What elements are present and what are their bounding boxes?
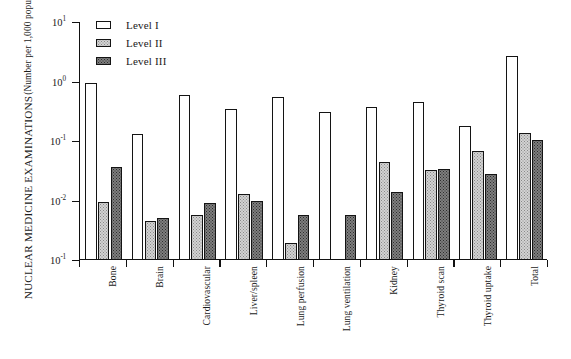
legend-swatch-level-2 [96,39,111,47]
bar-cardiovascular-level-1 [179,95,191,260]
bar-thyroid-scan-level-2 [425,170,437,260]
x-axis-label-kidney: Kidney [387,266,400,359]
x-axis-label-bone: Bone [106,266,119,359]
bar-thyroid-uptake-level-3 [485,174,497,260]
bar-kidney-level-1 [366,107,378,260]
x-tick-mark [219,260,220,267]
bar-kidney-level-3 [391,192,403,260]
bar-thyroid-uptake-level-1 [459,126,471,260]
bar-liver-spleen-level-1 [225,109,237,260]
x-axis-label-lung-ventilation: Lung ventilation [340,266,353,359]
x-tick-mark [79,260,80,267]
bar-bone-level-2 [98,202,110,260]
x-tick-mark [173,260,174,267]
legend-item-level-3: Level III [96,53,167,68]
x-axis-label-total: Total [528,266,541,359]
legend-item-level-2: Level II [96,35,167,50]
legend-label-level-3: Level III [126,55,167,67]
x-axis-label-lung-perfusion: Lung perfusion [294,266,307,359]
x-tick-mark [126,260,127,267]
x-axis-label-cardiovascular: Cardiovascular [200,266,213,359]
x-axis-label-thyroid-scan: Thyroid scan [434,266,447,359]
bar-lung-perfusion-level-1 [272,97,284,260]
legend-label-level-1: Level I [126,19,159,31]
y-tick-label: 101 [24,15,66,28]
bar-lung-ventilation-level-3 [345,215,357,260]
legend-label-level-2: Level II [126,37,163,49]
x-tick-mark [360,260,361,267]
x-tick-mark [266,260,267,267]
x-axis-label-thyroid-uptake: Thyroid uptake [481,266,494,359]
bar-liver-spleen-level-2 [238,194,250,260]
x-tick-mark [453,260,454,267]
bar-bone-level-1 [85,83,97,260]
legend-swatch-level-1 [96,21,111,29]
bar-lung-perfusion-level-3 [298,215,310,260]
bar-thyroid-scan-level-1 [413,102,425,260]
bar-cardiovascular-level-2 [191,215,203,260]
bar-total-level-3 [532,140,544,260]
bar-total-level-1 [506,56,518,260]
bar-total-level-2 [519,133,531,260]
bar-liver-spleen-level-3 [251,201,263,261]
bar-thyroid-uptake-level-2 [472,151,484,260]
bar-cardiovascular-level-3 [204,203,216,260]
bar-bone-level-3 [111,167,123,260]
x-tick-mark [407,260,408,267]
legend: Level ILevel IILevel III [96,17,167,71]
bar-brain-level-1 [132,134,144,260]
bar-lung-ventilation-level-1 [319,112,331,260]
y-tick-label: 10-2 [24,194,66,207]
x-tick-mark [547,260,548,267]
bar-thyroid-scan-level-3 [438,169,450,260]
bar-lung-perfusion-level-2 [285,243,297,260]
bar-kidney-level-2 [379,162,391,260]
legend-swatch-level-3 [96,57,111,65]
x-tick-mark [313,260,314,267]
nuclear-medicine-examinations-chart: NUCLEAR MEDICINE EXAMINATIONS (Number pe… [0,0,571,359]
y-tick-label: 10-1 [24,253,66,266]
x-axis-label-liver-spleen: Liver/spleen [247,266,260,359]
y-tick-label: 100 [24,75,66,88]
y-tick-label: 10-1 [24,134,66,147]
bar-brain-level-2 [145,221,157,260]
legend-item-level-1: Level I [96,17,167,32]
x-axis-label-brain: Brain [153,266,166,359]
bar-brain-level-3 [157,218,169,260]
x-tick-mark [500,260,501,267]
